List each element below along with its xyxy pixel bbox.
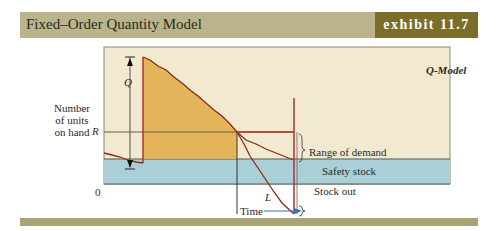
lead-time-label: L	[265, 191, 271, 203]
time-label: Time	[240, 205, 263, 217]
range-of-demand-label: Range of demand	[309, 146, 387, 158]
stock-out-label: Stock out	[314, 185, 356, 197]
footer-bar	[20, 218, 478, 226]
y-axis-label: Number of units on hand	[46, 102, 98, 138]
q-label: Q	[124, 76, 132, 88]
zero-label: 0	[95, 186, 101, 198]
q-model-label: Q-Model	[426, 64, 466, 76]
safety-stock-label: Safety stock	[322, 165, 376, 177]
r-label: R	[92, 125, 99, 137]
safety-stock-band	[104, 159, 450, 184]
